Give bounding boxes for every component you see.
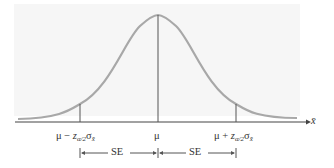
normal-curve-diagram (0, 0, 334, 168)
axis-label: x̄ (311, 115, 316, 126)
mean-label: μ (154, 130, 160, 141)
lower-prefix: μ − (56, 130, 73, 141)
sigma-subscript: x̄ (92, 135, 95, 143)
z-subscript: α/2 (235, 135, 244, 143)
upper-prefix: μ + (214, 130, 231, 141)
arrowhead-icon (231, 151, 235, 155)
sigma-subscript: x̄ (250, 135, 253, 143)
arrowhead-icon (81, 151, 85, 155)
arrowhead-icon (159, 151, 163, 155)
z-subscript: α/2 (77, 135, 86, 143)
lower-bound-label: μ − zα/2σx̄ (56, 130, 95, 143)
se-label-right: SE (189, 146, 201, 157)
upper-bound-label: μ + zα/2σx̄ (214, 130, 253, 143)
se-label-left: SE (111, 146, 123, 157)
arrowhead-icon (153, 151, 157, 155)
